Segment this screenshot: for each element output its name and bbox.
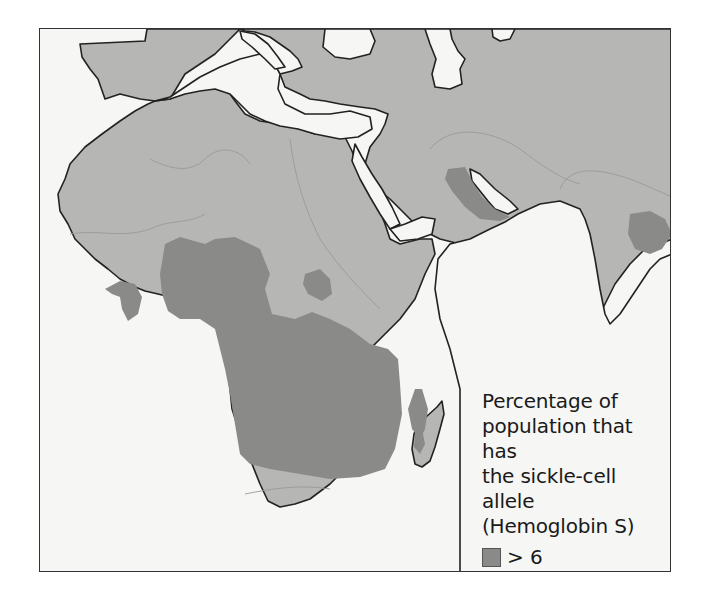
map-frame: Percentage of population that has the si… (39, 28, 671, 572)
black-sea (323, 29, 375, 59)
high-west-africa (105, 281, 142, 321)
legend-title: Percentage of population that has the si… (482, 389, 671, 539)
legend-title-line: Percentage of (482, 389, 671, 414)
legend-swatch-high (482, 548, 501, 567)
legend: Percentage of population that has the si… (482, 389, 671, 572)
legend-label-high: > 6 (507, 546, 543, 568)
legend-item-high: > 6 (482, 545, 671, 569)
legend-title-line: (Hemoglobin S) (482, 514, 671, 539)
legend-title-line: the sickle-cell allele (482, 464, 671, 514)
legend-title-line: population that has (482, 414, 671, 464)
